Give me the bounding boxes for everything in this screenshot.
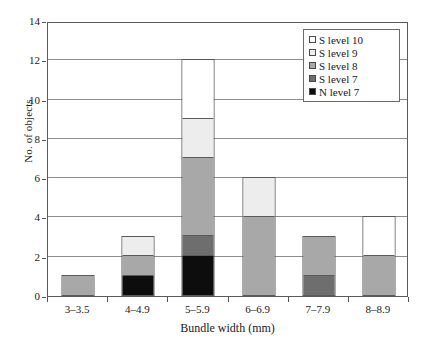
- y-tick-mark-4: [42, 218, 46, 219]
- y-tick-mark-2: [42, 258, 46, 259]
- y-tick-label-2: 2: [14, 252, 40, 263]
- legend-label: N level 7: [319, 86, 359, 98]
- stacked-bar[interactable]: [302, 236, 335, 296]
- legend-label: S level 7: [319, 73, 358, 85]
- legend-item[interactable]: N level 7: [309, 85, 395, 98]
- y-tick-mark-0: [42, 297, 46, 298]
- bar-segment[interactable]: [183, 158, 214, 236]
- legend-item[interactable]: S level 9: [309, 46, 395, 59]
- bar-segment[interactable]: [303, 237, 334, 276]
- bar-segment[interactable]: [123, 276, 154, 295]
- legend-label: S level 8: [319, 60, 358, 72]
- y-tick-mark-8: [42, 140, 46, 141]
- bar-segment[interactable]: [243, 217, 274, 295]
- y-tick-label-10: 10: [14, 95, 40, 106]
- bar-slot: [168, 23, 228, 296]
- bar-segment[interactable]: [123, 256, 154, 275]
- y-tick-label-0: 0: [14, 291, 40, 302]
- bar-chart-figure: No. of objects 02468101214 3–3.54–4.95–5…: [0, 0, 424, 342]
- y-tick-mark-6: [42, 179, 46, 180]
- bar-segment[interactable]: [183, 119, 214, 158]
- x-tick-mark: [47, 297, 48, 302]
- x-tick-mark: [408, 297, 409, 302]
- stacked-bar[interactable]: [242, 177, 275, 296]
- bar-slot: [48, 23, 108, 296]
- y-tick-label-6: 6: [14, 173, 40, 184]
- stacked-bar[interactable]: [182, 59, 215, 296]
- y-tick-mark-10: [42, 101, 46, 102]
- legend-swatch-icon: [309, 62, 316, 69]
- y-tick-label-8: 8: [14, 134, 40, 145]
- bar-segment[interactable]: [183, 236, 214, 256]
- bar-segment[interactable]: [363, 217, 394, 256]
- legend-item[interactable]: S level 7: [309, 72, 395, 85]
- stacked-bar[interactable]: [362, 216, 395, 296]
- bar-segment[interactable]: [63, 276, 94, 295]
- stacked-bar[interactable]: [62, 275, 95, 296]
- legend-swatch-icon: [309, 36, 316, 43]
- legend: S level 10S level 9S level 8S level 7N l…: [303, 29, 400, 102]
- bar-segment[interactable]: [243, 178, 274, 217]
- x-tick-mark: [107, 297, 108, 302]
- x-tick-mark: [228, 297, 229, 302]
- legend-item[interactable]: S level 8: [309, 59, 395, 72]
- x-tick-mark: [348, 297, 349, 302]
- legend-label: S level 10: [319, 34, 363, 46]
- x-tick-label-6: 8–8.9: [343, 303, 413, 315]
- bar-segment[interactable]: [183, 256, 214, 295]
- x-tick-mark: [167, 297, 168, 302]
- x-tick-mark: [288, 297, 289, 302]
- stacked-bar[interactable]: [122, 236, 155, 296]
- bar-segment[interactable]: [363, 256, 394, 295]
- bar-segment[interactable]: [123, 237, 154, 256]
- y-tick-label-14: 14: [14, 16, 40, 27]
- x-axis-title: Bundle width (mm): [47, 321, 408, 336]
- bar-segment[interactable]: [183, 60, 214, 119]
- bar-slot: [108, 23, 168, 296]
- bar-slot: [229, 23, 289, 296]
- legend-label: S level 9: [319, 47, 358, 59]
- legend-swatch-icon: [309, 88, 316, 95]
- y-tick-mark-14: [42, 22, 46, 23]
- legend-swatch-icon: [309, 75, 316, 82]
- legend-item[interactable]: S level 10: [309, 33, 395, 46]
- y-tick-mark-12: [42, 61, 46, 62]
- legend-swatch-icon: [309, 49, 316, 56]
- y-tick-label-4: 4: [14, 212, 40, 223]
- y-tick-label-12: 12: [14, 55, 40, 66]
- bar-segment[interactable]: [303, 276, 334, 295]
